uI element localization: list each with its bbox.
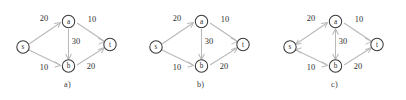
weight-b-t: 20 (87, 62, 95, 71)
weight-s-a: 20 (307, 14, 315, 23)
weight-b-t: 20 (354, 62, 362, 71)
panel-caption-c: c) (267, 80, 402, 89)
node-t: t (371, 38, 383, 50)
weight-s-b: 10 (40, 63, 48, 72)
node-a: a (62, 15, 74, 27)
weight-a-b: 30 (339, 37, 347, 46)
weight-a-t: 10 (221, 15, 229, 24)
node-b: b (329, 60, 341, 72)
edge-a-t (77, 23, 104, 41)
weight-a-t: 10 (355, 15, 363, 24)
figure-root: s a b t 20 10 30 10 20 a) (0, 0, 406, 100)
graph-panel-a: s a b t 20 10 30 10 20 a) (0, 0, 135, 100)
node-s-label: s (22, 43, 25, 51)
node-b: b (195, 60, 207, 72)
weight-s-b: 10 (307, 63, 315, 72)
weight-a-b: 30 (72, 37, 80, 46)
node-a: a (195, 15, 207, 27)
node-s: s (150, 41, 162, 53)
node-s-label: s (289, 43, 292, 51)
node-t-label: t (242, 41, 244, 49)
edge-s-a (162, 23, 193, 44)
node-s: s (284, 41, 296, 53)
graph-diagram-b: s a b t 20 10 30 10 20 (133, 0, 268, 82)
weight-s-b: 10 (173, 63, 181, 72)
edge-s-a (296, 23, 327, 44)
weight-s-a: 20 (173, 14, 181, 23)
node-b-label: b (200, 62, 204, 70)
graph-diagram-c: s a b t 20 10 30 10 20 (267, 0, 402, 82)
node-b: b (62, 60, 74, 72)
weight-s-a: 20 (40, 14, 48, 23)
node-t: t (237, 38, 249, 50)
weight-a-t: 10 (88, 15, 96, 24)
panel-caption-b: b) (133, 80, 268, 89)
edge-s-a (29, 23, 60, 44)
node-s-label: s (155, 43, 158, 51)
node-b-label: b (67, 62, 71, 70)
graph-diagram-a: s a b t 20 10 30 10 20 (0, 0, 135, 82)
graph-panel-b: s a b t 20 10 30 10 20 b) (133, 0, 268, 100)
node-a: a (329, 15, 341, 27)
panel-caption-a: a) (0, 80, 135, 89)
node-s: s (17, 41, 29, 53)
node-t: t (104, 38, 116, 50)
graph-panel-c: s a b t 20 10 30 10 20 c) (267, 0, 402, 100)
edge-a-t (210, 23, 237, 41)
weight-b-t: 20 (220, 62, 228, 71)
weight-a-b: 30 (205, 37, 213, 46)
edge-a-t (344, 23, 371, 41)
node-t-label: t (109, 41, 111, 49)
node-t-label: t (376, 41, 378, 49)
node-b-label: b (334, 62, 338, 70)
